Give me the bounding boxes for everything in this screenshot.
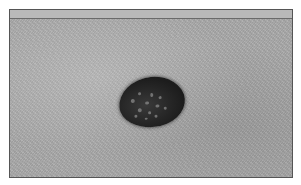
photo-top-band — [10, 10, 292, 19]
lesion-speck — [150, 93, 153, 97]
lesion-speck — [155, 104, 159, 107]
lesion-speck — [131, 99, 135, 103]
lesion-speck — [148, 111, 151, 114]
lesion-speck — [145, 101, 149, 104]
lesion-speck — [134, 115, 137, 118]
lesion-speck — [138, 92, 141, 95]
lesion-speck — [158, 96, 161, 99]
lesion-speck — [138, 108, 142, 112]
photo-frame — [9, 9, 293, 178]
lesion-speck — [154, 115, 157, 118]
lesion-speck — [164, 107, 167, 110]
lesion-speck — [145, 118, 148, 120]
pigmented-lesion — [117, 74, 188, 131]
